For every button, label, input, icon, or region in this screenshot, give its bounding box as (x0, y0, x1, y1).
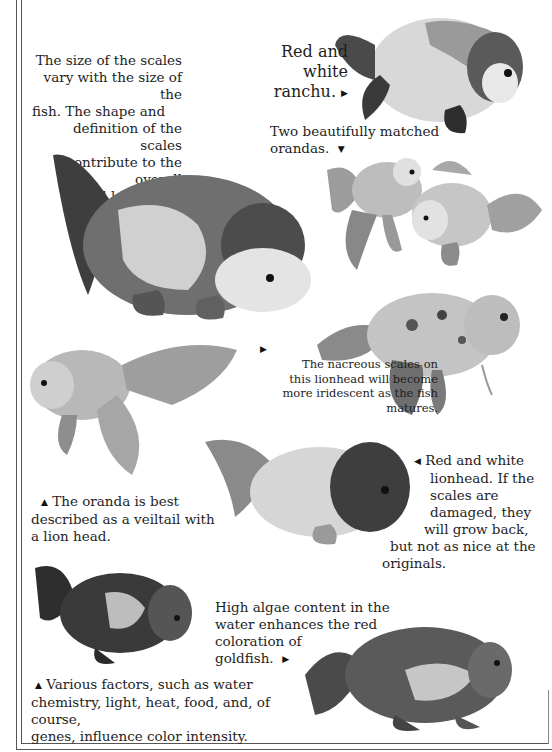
ranchu-bottom-right-image (305, 615, 515, 735)
caption-line: damaged, they (382, 504, 542, 521)
caption-nacreous-scales: ▶ The nacreous scales on this lionhead w… (260, 357, 438, 415)
caption-line: genes, influence color intensity. (31, 728, 281, 745)
ranchu-top-right-image (330, 5, 530, 135)
caption-line: Red and white (238, 42, 348, 82)
caption-line: ranchu. (274, 82, 336, 101)
caption-line: The size of the scales (32, 52, 182, 69)
caption-red-white-ranchu: Red and white ranchu. ▶ (238, 42, 348, 103)
right-arrow-icon: ▶ (341, 83, 348, 103)
caption-line: but not as nice at the (382, 538, 542, 555)
caption-line: goldfish. (215, 650, 274, 666)
caption-line: will grow back, (382, 521, 542, 538)
up-arrow-icon: ▲ (41, 494, 48, 511)
caption-line: fish. The shape and (32, 103, 182, 120)
caption-line: a lion head. (31, 528, 221, 545)
caption-line: matures. (260, 401, 438, 416)
caption-line: lionhead. If the (382, 470, 542, 487)
caption-line: The nacreous scales on (260, 357, 438, 372)
caption-line: more iridescent as the fish (260, 386, 438, 401)
page-border-left-outer (16, 0, 17, 750)
ranchu-dark-image (35, 558, 195, 668)
caption-oranda-veiltail: ▲ The oranda is best described as a veil… (31, 493, 221, 545)
book-page: The size of the scales vary with the siz… (0, 0, 552, 752)
orandas-pair-image (322, 150, 547, 275)
left-arrow-icon: ◀ (414, 453, 421, 470)
caption-line: originals. (382, 555, 542, 572)
page-border-right (548, 690, 549, 744)
caption-line: The oranda is best (52, 493, 179, 509)
up-right-arrow-icon: ▶ (260, 342, 267, 357)
caption-various-factors: ▲ Various factors, such as water chemist… (31, 676, 281, 745)
up-arrow-icon: ▲ (35, 677, 42, 694)
caption-red-white-lionhead: ◀ Red and white lionhead. If the scales … (382, 452, 542, 572)
caption-line: this lionhead will become (260, 372, 438, 387)
caption-line: described as a veiltail with (31, 511, 221, 528)
page-border-bottom-outer (16, 749, 552, 750)
ranchu-large-image (48, 150, 318, 325)
caption-line: definition of the scales (32, 120, 182, 154)
caption-line: scales are (382, 487, 542, 504)
caption-line: Two beautifully matched (270, 123, 440, 140)
caption-line: vary with the size of the (32, 69, 182, 103)
caption-line: chemistry, light, heat, food, and, of co… (31, 694, 281, 728)
right-arrow-icon: ▶ (282, 651, 289, 668)
caption-line: High algae content in the (215, 599, 390, 616)
caption-line: Various factors, such as water (46, 676, 252, 692)
caption-line: Red and white (425, 452, 524, 468)
